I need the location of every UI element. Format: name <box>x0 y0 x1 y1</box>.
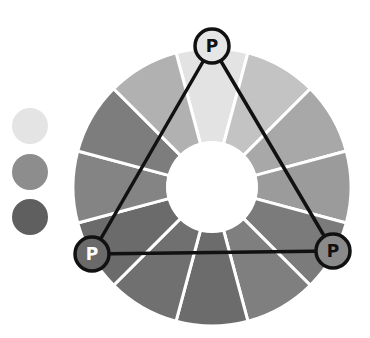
color-wheel: PPP <box>0 0 370 338</box>
primary-marker-top: P <box>195 29 229 63</box>
primary-marker-right: P <box>316 234 350 268</box>
primary-marker-left: P <box>75 237 109 271</box>
wheel-center-hole <box>166 141 258 233</box>
color-wheel-diagram: PPP <box>0 0 370 338</box>
primary-marker-label: P <box>86 244 98 264</box>
primary-marker-label: P <box>327 241 339 261</box>
primary-marker-label: P <box>206 36 218 56</box>
